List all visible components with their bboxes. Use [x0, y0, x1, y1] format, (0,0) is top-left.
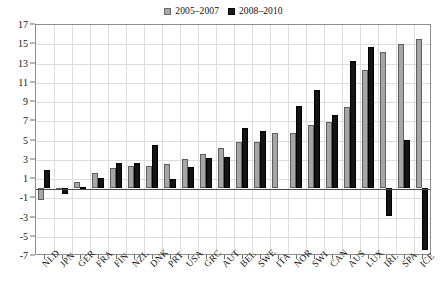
y-tick-label: 13 [4, 57, 28, 68]
bar-ice-series-2 [422, 188, 428, 251]
bar-dnk-series-2 [152, 145, 158, 187]
bar-lux-series-2 [368, 47, 374, 188]
bar-group [71, 24, 89, 255]
bar-can-series-1 [326, 122, 332, 187]
bar-aus-series-2 [350, 61, 356, 188]
bar-nor-series-1 [290, 133, 296, 188]
y-tick-label: 1 [4, 173, 28, 184]
bar-spa-series-1 [398, 44, 404, 187]
bar-group [161, 24, 179, 255]
bar-chart: 2005–2007 2008–2010 1715131197531-1-3-5-… [0, 0, 447, 296]
bar-grc-series-1 [200, 154, 206, 188]
y-tick-label: -3 [4, 211, 28, 222]
bar-spa-series-2 [404, 140, 410, 187]
y-tick-label: 9 [4, 96, 28, 107]
y-tick-label: 5 [4, 134, 28, 145]
bar-swi-series-1 [308, 125, 314, 188]
legend-entry-2005-2007: 2005–2007 [164, 6, 219, 16]
bar-prt-series-2 [170, 179, 176, 188]
y-tick-label: 7 [4, 115, 28, 126]
black-square-icon [228, 8, 235, 15]
bar-irl-series-2 [386, 188, 392, 216]
bar-nor-series-2 [296, 106, 302, 188]
bar-group [125, 24, 143, 255]
bar-bel-series-1 [236, 142, 242, 187]
bar-irl-series-1 [380, 52, 386, 188]
legend-entry-2008-2010: 2008–2010 [228, 6, 283, 16]
bar-group [197, 24, 215, 255]
bar-lux-series-1 [362, 70, 368, 187]
bar-group [377, 24, 395, 255]
bar-group [413, 24, 431, 255]
bar-dnk-series-1 [146, 166, 152, 187]
bar-group [269, 24, 287, 255]
bar-group [35, 24, 53, 255]
bar-can-series-2 [332, 115, 338, 187]
bar-bel-series-2 [242, 128, 248, 188]
bar-group [287, 24, 305, 255]
bar-usa-series-2 [188, 167, 194, 187]
bar-nzl-series-1 [128, 166, 134, 187]
bar-ita-series-1 [272, 133, 278, 188]
bar-group [323, 24, 341, 255]
bar-group [305, 24, 323, 255]
bars-layer [35, 24, 431, 255]
bar-aut-series-1 [218, 148, 224, 187]
y-tick-label: -1 [4, 192, 28, 203]
y-tick-label: 17 [4, 19, 28, 30]
bar-group [359, 24, 377, 255]
bar-aut-series-2 [224, 157, 230, 188]
bar-group [395, 24, 413, 255]
chart-legend: 2005–2007 2008–2010 [0, 4, 447, 18]
bar-ice-series-1 [416, 39, 422, 187]
y-tick-label: 11 [4, 76, 28, 87]
bar-fra-series-2 [98, 178, 104, 188]
bar-prt-series-1 [164, 164, 170, 188]
y-tick-label: -5 [4, 230, 28, 241]
bar-group [233, 24, 251, 255]
bar-group [143, 24, 161, 255]
bar-nzl-series-2 [134, 163, 140, 188]
bar-ger-series-1 [74, 182, 80, 188]
bar-group [179, 24, 197, 255]
bar-swe-series-1 [254, 142, 260, 187]
y-tick-label: -7 [4, 250, 28, 261]
bar-fin-series-2 [116, 163, 122, 188]
bar-swe-series-2 [260, 131, 266, 188]
bar-swi-series-2 [314, 90, 320, 187]
y-tick-label: 15 [4, 38, 28, 49]
bar-aus-series-1 [344, 107, 350, 188]
bar-grc-series-2 [206, 158, 212, 188]
y-tick-label: 3 [4, 153, 28, 164]
bar-group [215, 24, 233, 255]
bar-group [53, 24, 71, 255]
bar-fin-series-1 [110, 168, 116, 187]
grey-square-icon [164, 8, 171, 15]
bar-group [107, 24, 125, 255]
legend-label-series-2: 2008–2010 [239, 6, 283, 16]
bar-group [251, 24, 269, 255]
zero-baseline [36, 189, 430, 190]
bar-usa-series-1 [182, 159, 188, 188]
bar-fra-series-1 [92, 173, 98, 187]
legend-label-series-1: 2005–2007 [175, 6, 219, 16]
bar-nld-series-2 [44, 170, 50, 187]
bar-group [89, 24, 107, 255]
bar-group [341, 24, 359, 255]
